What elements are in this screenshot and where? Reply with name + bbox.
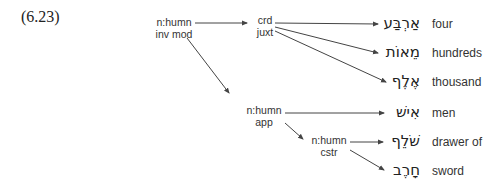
edge-root-app: [187, 38, 229, 93]
leaf-gloss-men: men: [432, 106, 455, 120]
node-app: n:humn app: [242, 104, 286, 128]
leaf-hebrew-drawer: שֹׁלֵף: [370, 132, 420, 150]
leaf-gloss-four: four: [432, 17, 453, 31]
edge-crd-hundreds: [275, 27, 378, 53]
edge-app-cstr: [285, 123, 303, 139]
leaf-hebrew-hundreds: מֵאוֹת: [370, 43, 420, 61]
edge-crd-four: [275, 23, 378, 24]
tree-edges: [0, 0, 497, 189]
leaf-hebrew-thousand: אֶלֶף: [370, 72, 420, 90]
leaf-gloss-hundreds: hundreds: [432, 46, 482, 60]
leaf-hebrew-men: אִישׁ: [370, 103, 420, 121]
node-root: n:humn inv mod: [152, 16, 196, 40]
leaf-hebrew-sword: חָרֶב: [370, 161, 420, 179]
leaf-gloss-thousand: thousand: [432, 75, 481, 89]
leaf-hebrew-four: אַרְבַּע: [370, 14, 420, 32]
node-cstr: n:humn cstr: [307, 134, 351, 158]
node-crd: crd juxt: [254, 14, 276, 38]
leaf-gloss-sword: sword: [432, 164, 464, 178]
leaf-gloss-drawer: drawer of: [432, 135, 482, 149]
